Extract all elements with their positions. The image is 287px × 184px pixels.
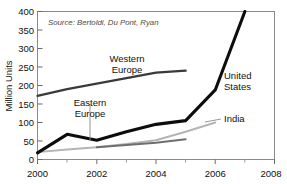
y-tick-400: 400: [18, 6, 34, 17]
series-label-united-states: United States: [224, 70, 251, 92]
y-tick-50: 50: [23, 136, 34, 147]
western-europe-label-line2: Europe: [112, 64, 143, 75]
y-tick-350: 350: [18, 25, 34, 36]
india-label: India: [224, 113, 245, 124]
y-tick-250: 250: [18, 62, 34, 73]
x-tick-2006: 2006: [205, 168, 226, 179]
india-leader-line: [205, 119, 221, 122]
y-tick-0: 0: [29, 154, 34, 165]
united-states-label-line1: United: [224, 70, 251, 81]
x-axis-ticks: [38, 160, 275, 165]
cropped-title-strip: [0, 0, 287, 7]
western-europe-label-line1: Western: [109, 53, 144, 64]
y-axis-ticks: [38, 12, 43, 160]
eastern-europe-label-line1: Eastern: [74, 97, 107, 108]
x-tick-2004: 2004: [145, 168, 166, 179]
y-tick-300: 300: [18, 43, 34, 54]
y-tick-150: 150: [18, 99, 34, 110]
y-tick-200: 200: [18, 80, 34, 91]
series-line-united-states: [38, 12, 245, 153]
x-tick-2008: 2008: [260, 168, 281, 179]
united-states-label-line2: States: [224, 81, 251, 92]
x-tick-2000: 2000: [27, 168, 48, 179]
y-tick-labels: 400 350 300 250 200 150 100 50 0: [18, 6, 34, 165]
series-label-western-europe: Western Europe: [109, 53, 144, 75]
source-note: Source: Bertoldi, Du Pont, Ryan: [48, 18, 159, 27]
series-label-eastern-europe: Eastern Europe: [74, 97, 107, 119]
line-chart: 400 350 300 250 200 150 100 50 0 2000 20…: [0, 0, 287, 184]
eastern-europe-label-line2: Europe: [75, 108, 106, 119]
x-tick-2002: 2002: [86, 168, 107, 179]
x-tick-labels: 2000 2002 2004 2006 2008: [27, 168, 282, 179]
y-tick-100: 100: [18, 117, 34, 128]
chart-svg: 400 350 300 250 200 150 100 50 0 2000 20…: [0, 0, 287, 184]
y-axis-title: Million Units: [3, 60, 14, 111]
series-line-eastern-europe: [97, 139, 186, 147]
